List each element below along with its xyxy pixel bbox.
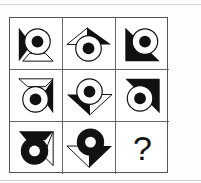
- figure-r1c1-icon: [10, 18, 62, 69]
- cell-r2c1[interactable]: [10, 70, 63, 122]
- figure-r3c2-icon: [63, 122, 115, 174]
- puzzle-grid: ?: [9, 17, 168, 173]
- cell-r3c1[interactable]: [10, 122, 63, 174]
- figure-r2c3-icon: [116, 70, 169, 121]
- figure-r2c2-icon: [63, 70, 115, 121]
- figure-r1c3-icon: [116, 18, 169, 69]
- cell-r1c3[interactable]: [116, 18, 169, 70]
- question-mark: ?: [116, 122, 169, 174]
- figure-r2c1-icon: [10, 70, 62, 121]
- cell-r1c2[interactable]: [63, 18, 116, 70]
- figure-r3c1-icon: [10, 122, 62, 174]
- figure-r1c2-icon: [63, 18, 115, 69]
- cell-r2c3[interactable]: [116, 70, 169, 122]
- cell-r2c2[interactable]: [63, 70, 116, 122]
- cell-r3c3-missing[interactable]: ?: [116, 122, 169, 174]
- top-rule: [0, 4, 201, 5]
- bottom-rule: [0, 180, 201, 181]
- cell-r1c1[interactable]: [10, 18, 63, 70]
- cell-r3c2[interactable]: [63, 122, 116, 174]
